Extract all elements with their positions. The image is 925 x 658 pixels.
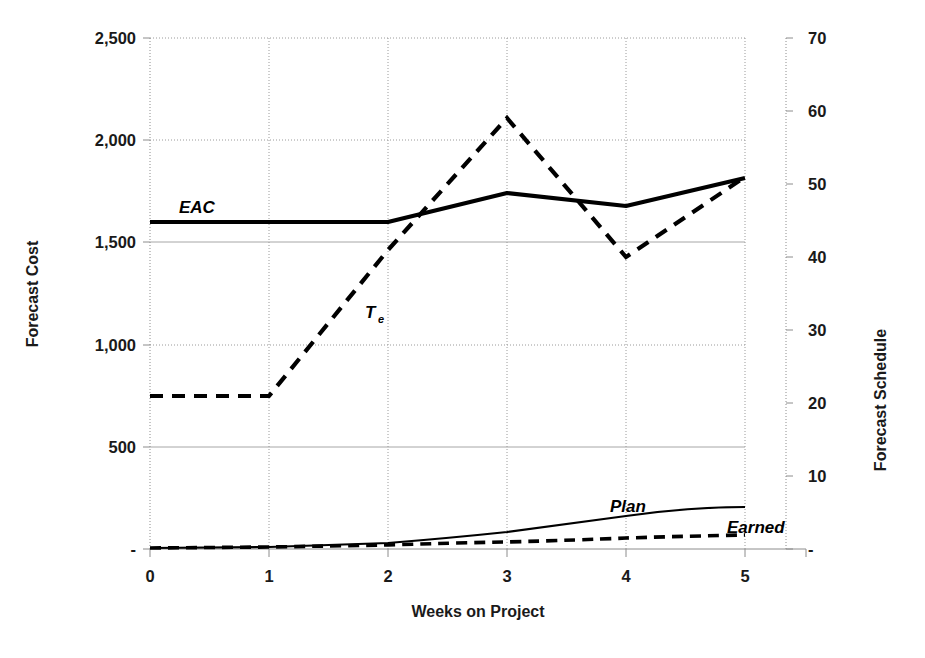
series-label-eac: EAC (179, 198, 216, 217)
y-right-tick-50: 50 (808, 175, 826, 193)
y-left-tick-1000: 1,000 (95, 336, 136, 354)
series-label-te: T (365, 303, 377, 322)
y-right-tick-labels: 70 60 50 40 30 20 10 - (808, 29, 826, 558)
chart-container: EAC T e Plan Earned 2,500 2,000 1,500 1,… (0, 0, 925, 658)
x-tick-labels: 0 1 2 3 4 5 (145, 567, 749, 585)
y-right-tick-20: 20 (808, 394, 826, 412)
x-tick-3: 3 (502, 567, 511, 585)
x-tick-5: 5 (740, 567, 749, 585)
forecast-cost-schedule-chart: EAC T e Plan Earned 2,500 2,000 1,500 1,… (0, 0, 925, 658)
y-left-axis-title: Forecast Cost (24, 240, 41, 347)
y-left-tick-labels: 2,500 2,000 1,500 1,000 500 - (95, 29, 136, 558)
y-right-tick-70: 70 (808, 29, 826, 47)
series-label-plan: Plan (610, 497, 646, 516)
y-left-tick-500: 500 (108, 438, 136, 456)
y-left-tick-2500: 2,500 (95, 29, 136, 47)
y-left-tick-2000: 2,000 (95, 131, 136, 149)
y-left-tickmarks (143, 38, 150, 549)
y-right-tick-0: - (808, 540, 814, 558)
series-label-te-subscript: e (378, 313, 384, 325)
y-right-tick-40: 40 (808, 248, 826, 266)
y-right-axis-title: Forecast Schedule (872, 329, 889, 471)
x-tick-0: 0 (145, 567, 154, 585)
y-right-tick-60: 60 (808, 102, 826, 120)
x-tick-2: 2 (383, 567, 392, 585)
y-right-tick-30: 30 (808, 321, 826, 339)
series-label-earned: Earned (727, 518, 785, 537)
y-left-tick-1500: 1,500 (95, 233, 136, 251)
x-tickmarks (150, 549, 806, 557)
plot-area-background (150, 38, 745, 549)
y-right-tick-10: 10 (808, 467, 826, 485)
x-tick-1: 1 (264, 567, 273, 585)
x-tick-4: 4 (621, 567, 631, 585)
y-left-tick-0: - (131, 540, 137, 558)
x-axis-title: Weeks on Project (411, 603, 545, 620)
y-right-tickmarks (786, 38, 793, 549)
